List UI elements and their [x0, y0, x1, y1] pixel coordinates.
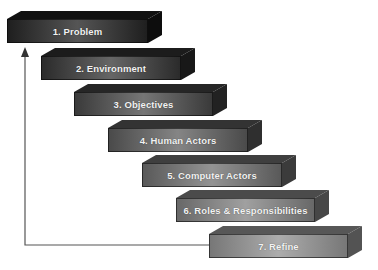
step-top-face	[74, 84, 227, 92]
step-label: 6. Roles & Responsibilities	[176, 198, 315, 222]
step-box-4: 4. Human Actors	[108, 120, 262, 152]
step-box-3: 3. Objectives	[74, 84, 227, 116]
step-top-face	[41, 48, 195, 56]
step-top-face	[108, 120, 262, 128]
step-label: 7. Refine	[209, 234, 348, 258]
step-label: 4. Human Actors	[108, 128, 248, 152]
step-box-2: 2. Environment	[41, 48, 195, 80]
step-box-7: 7. Refine	[209, 226, 362, 258]
step-label: 2. Environment	[41, 56, 181, 80]
step-label: 1. Problem	[7, 19, 148, 43]
step-label: 5. Computer Actors	[142, 163, 282, 187]
step-label: 3. Objectives	[74, 92, 213, 116]
step-top-face	[176, 190, 329, 198]
step-top-face	[142, 155, 296, 163]
step-box-6: 6. Roles & Responsibilities	[176, 190, 329, 222]
staircase-diagram: 1. Problem2. Environment3. Objectives4. …	[0, 0, 378, 270]
step-top-face	[209, 226, 362, 234]
step-top-face	[7, 11, 162, 19]
step-box-1: 1. Problem	[7, 11, 162, 43]
step-box-5: 5. Computer Actors	[142, 155, 296, 187]
